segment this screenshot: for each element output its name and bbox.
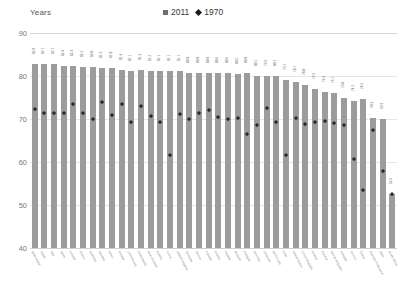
bar-value-label: 76.9 (312, 73, 316, 79)
bar[interactable] (225, 73, 231, 248)
bar[interactable] (293, 82, 299, 248)
x-tick-label: Sweden (98, 250, 107, 262)
bar-group[interactable]: 75.0 (341, 33, 347, 248)
bar-group[interactable]: 80.8 (186, 33, 192, 248)
legend-item-2011[interactable]: 2011 (163, 7, 189, 17)
bar-value-label: 80.8 (206, 56, 210, 62)
bar[interactable] (109, 68, 115, 248)
bar-group[interactable]: 80.8 (244, 33, 250, 248)
bar-group[interactable]: 80.1 (273, 33, 279, 248)
bar-group[interactable]: 82.8 (32, 33, 38, 248)
x-tick-label: Austria (156, 250, 164, 260)
bar-group[interactable]: 69.9 (380, 33, 386, 248)
bar[interactable] (148, 71, 154, 248)
bar-group[interactable]: 81.1 (128, 33, 134, 248)
bar[interactable] (235, 74, 241, 248)
bar-group[interactable]: 78.7 (293, 33, 299, 248)
legend-item-1970[interactable]: 1970 (196, 7, 223, 17)
bar-group[interactable]: 79.9 (264, 33, 270, 248)
bar-group[interactable]: 82.4 (70, 33, 76, 248)
bar[interactable] (61, 66, 67, 248)
bar-value-label: 82.4 (71, 49, 75, 55)
bar[interactable] (157, 71, 163, 248)
bar-group[interactable]: 80.1 (254, 33, 260, 248)
bar[interactable] (206, 73, 212, 248)
bar-group[interactable]: 70.3 (370, 33, 376, 248)
bar-group[interactable]: 82.7 (41, 33, 47, 248)
bar[interactable] (32, 64, 38, 248)
bar[interactable] (244, 73, 250, 248)
bar-group[interactable]: 78.0 (302, 33, 308, 248)
bar[interactable] (322, 92, 328, 248)
bar-group[interactable]: 82.7 (51, 33, 57, 248)
bar-group[interactable]: 81.2 (148, 33, 154, 248)
bar[interactable] (283, 80, 289, 248)
bar[interactable] (99, 68, 105, 248)
bar[interactable] (186, 73, 192, 248)
bar[interactable] (331, 93, 337, 248)
x-tick-label: Korea (165, 250, 172, 259)
bar-group[interactable]: 81.1 (157, 33, 163, 248)
bar-group[interactable]: 82.0 (90, 33, 96, 248)
x-tick-label: Australia (88, 250, 97, 263)
bar[interactable] (196, 73, 202, 248)
bar-value-label: 78.7 (293, 65, 297, 71)
bar-group[interactable]: 82.2 (80, 33, 86, 248)
bar[interactable] (351, 101, 357, 248)
bar[interactable] (264, 76, 270, 248)
bar-group[interactable]: 52.6 (389, 33, 395, 248)
bar-value-label: 82.8 (32, 48, 36, 54)
bar-value-label: 78.0 (303, 68, 307, 74)
x-tick-label: Chile (281, 250, 288, 258)
bar-value-label: 80.5 (235, 58, 239, 64)
bar[interactable] (119, 70, 125, 248)
bar[interactable] (167, 71, 173, 248)
bar-value-label: 81.3 (138, 54, 142, 60)
x-tick-label: Belgium (233, 250, 242, 262)
bar[interactable] (341, 98, 347, 249)
bar-group[interactable]: 81.4 (119, 33, 125, 248)
bar[interactable] (128, 71, 134, 248)
bar-group[interactable]: 76.1 (331, 33, 337, 248)
bar[interactable] (370, 118, 376, 248)
bar-group[interactable]: 80.6 (215, 33, 221, 248)
bar-group[interactable]: 79.1 (283, 33, 289, 248)
bar-group[interactable]: 76.3 (322, 33, 328, 248)
bar-group[interactable]: 74.2 (351, 33, 357, 248)
bar-value-label: 81.1 (167, 55, 171, 61)
bar[interactable] (80, 67, 86, 248)
bar-group[interactable]: 81.1 (167, 33, 173, 248)
bar[interactable] (380, 119, 386, 248)
bar[interactable] (215, 73, 221, 248)
bar-group[interactable]: 81.3 (138, 33, 144, 248)
bar[interactable] (138, 70, 144, 248)
bar-group[interactable]: 81.9 (99, 33, 105, 248)
bar[interactable] (51, 64, 57, 248)
bars-layer: 82.882.782.782.482.482.282.081.981.881.4… (30, 33, 397, 248)
legend-label-1970: 1970 (204, 7, 223, 17)
bar-group[interactable]: 80.6 (225, 33, 231, 248)
bar-group[interactable]: 80.8 (196, 33, 202, 248)
bar-group[interactable]: 80.5 (235, 33, 241, 248)
bar[interactable] (312, 89, 318, 248)
bar-group[interactable]: 81.1 (177, 33, 183, 248)
x-tick-label: Mexico (349, 250, 357, 261)
bar[interactable] (254, 76, 260, 248)
bar-group[interactable]: 82.4 (61, 33, 67, 248)
bar[interactable] (389, 194, 395, 248)
x-tick-label: India (378, 250, 385, 258)
chart-legend: 2011 1970 (163, 7, 223, 17)
bar[interactable] (70, 66, 76, 248)
bar[interactable] (360, 99, 366, 248)
bar[interactable] (177, 71, 183, 248)
bar[interactable] (302, 85, 308, 248)
x-axis-labels: SwitzerlandJapanItalySpainIcelandFranceA… (30, 250, 397, 282)
bar-group[interactable]: 76.9 (312, 33, 318, 248)
x-tick-label: Japan (40, 250, 47, 259)
bar[interactable] (273, 76, 279, 248)
bar[interactable] (90, 67, 96, 248)
bar-group[interactable]: 81.8 (109, 33, 115, 248)
bar-group[interactable]: 74.6 (360, 33, 366, 248)
bar-group[interactable]: 80.8 (206, 33, 212, 248)
bar[interactable] (41, 64, 47, 248)
